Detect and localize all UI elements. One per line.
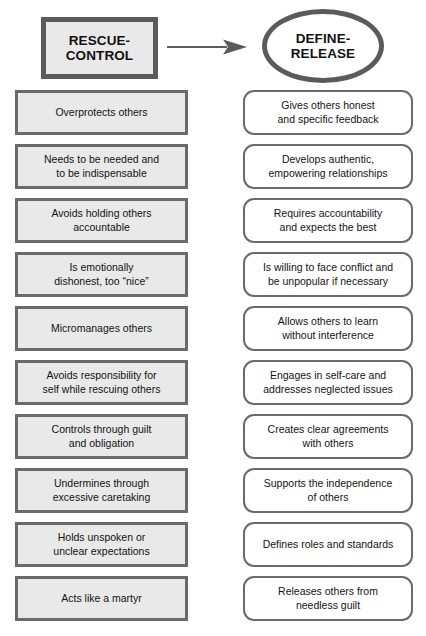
right-column: Gives others honest and specific feedbac…: [243, 90, 413, 630]
list-item-text: Develops authentic, empowering relations…: [263, 153, 392, 179]
list-item-line2: addresses neglected issues: [263, 383, 393, 395]
list-item: Controls through guilt and obligation: [15, 414, 188, 459]
list-item-line2: accountable: [73, 221, 130, 233]
list-item: Is willing to face conflict and be unpop…: [243, 252, 413, 297]
right-arrow-icon: [165, 36, 250, 58]
list-item: Overprotects others: [15, 90, 188, 135]
list-item: Requires accountability and expects the …: [243, 198, 413, 243]
header-left-line1: RESCUE-: [69, 33, 130, 48]
comparison-diagram: RESCUE- CONTROL DEFINE- RELEASE Overprot…: [0, 0, 426, 636]
list-item-line1: Undermines through: [54, 477, 149, 489]
list-item-line1: Is willing to face conflict and: [263, 261, 393, 273]
list-item-line1: Controls through guilt: [52, 423, 152, 435]
list-item-line1: Releases others from: [278, 585, 378, 597]
list-item-text: Requires accountability and expects the …: [269, 207, 388, 233]
diagram-header: RESCUE- CONTROL DEFINE- RELEASE: [0, 0, 426, 90]
list-item-line2: without interference: [282, 329, 374, 341]
list-item-line1: Defines roles and standards: [263, 538, 394, 550]
header-ellipse-label: DEFINE- RELEASE: [291, 31, 355, 61]
header-box-label: RESCUE- CONTROL: [66, 33, 133, 63]
list-item-text: Creates clear agreements with others: [263, 423, 394, 449]
list-item-line1: Supports the independence: [264, 477, 392, 489]
list-item-line1: Allows others to learn: [278, 315, 378, 327]
list-item-line2: self while rescuing others: [43, 383, 161, 395]
list-item-line1: Creates clear agreements: [268, 423, 389, 435]
list-item-text: Allows others to learn without interfere…: [273, 315, 383, 341]
list-item: Engages in self-care and addresses negle…: [243, 360, 413, 405]
list-item-line1: Overprotects others: [55, 106, 147, 118]
header-left-line2: CONTROL: [66, 48, 133, 63]
list-item-line2: and obligation: [69, 437, 134, 449]
list-item-line2: empowering relationships: [268, 167, 387, 179]
list-item: Holds unspoken or unclear expectations: [15, 522, 188, 567]
list-item: Allows others to learn without interfere…: [243, 306, 413, 351]
list-item-line1: Avoids responsibility for: [46, 369, 156, 381]
list-item-line1: Needs to be needed and: [44, 153, 159, 165]
list-item-line2: dishonest, too “nice”: [54, 275, 149, 287]
list-item-line2: with others: [303, 437, 354, 449]
list-item-text: Releases others from needless guilt: [273, 585, 383, 611]
list-item-text: Undermines through excessive caretaking: [48, 477, 155, 503]
list-item-text: Acts like a martyr: [56, 592, 147, 605]
list-item: Acts like a martyr: [15, 576, 188, 621]
list-item-line1: Is emotionally: [69, 261, 133, 273]
list-item-line1: Avoids holding others: [51, 207, 151, 219]
list-item-text: Gives others honest and specific feedbac…: [273, 99, 384, 125]
list-item: Develops authentic, empowering relations…: [243, 144, 413, 189]
list-item-line2: excessive caretaking: [53, 491, 150, 503]
left-column: Overprotects others Needs to be needed a…: [15, 90, 188, 630]
header-right-line2: RELEASE: [291, 46, 355, 61]
list-item: Needs to be needed and to be indispensab…: [15, 144, 188, 189]
list-item: Gives others honest and specific feedbac…: [243, 90, 413, 135]
list-item-text: Supports the independence of others: [259, 477, 397, 503]
list-item-text: Is willing to face conflict and be unpop…: [258, 261, 398, 287]
list-item-text: Micromanages others: [46, 322, 157, 335]
list-item-text: Controls through guilt and obligation: [47, 423, 157, 449]
list-item-text: Avoids holding others accountable: [46, 207, 156, 233]
list-item-line2: and expects the best: [280, 221, 377, 233]
list-item-line1: Develops authentic,: [282, 153, 374, 165]
list-item: Avoids holding others accountable: [15, 198, 188, 243]
list-item-line1: Micromanages others: [51, 322, 152, 334]
list-item-line2: of others: [308, 491, 349, 503]
list-item-line2: be unpopular if necessary: [268, 275, 388, 287]
list-item-text: Is emotionally dishonest, too “nice”: [49, 261, 154, 287]
header-right-line1: DEFINE-: [296, 31, 351, 46]
list-item-text: Overprotects others: [50, 106, 152, 119]
list-item-text: Holds unspoken or unclear expectations: [48, 531, 154, 557]
list-item-line1: Holds unspoken or: [58, 531, 146, 543]
list-item: Supports the independence of others: [243, 468, 413, 513]
list-item: Releases others from needless guilt: [243, 576, 413, 621]
list-item-line1: Requires accountability: [274, 207, 383, 219]
list-item-line1: Gives others honest: [281, 99, 374, 111]
list-item-line2: and specific feedback: [278, 113, 379, 125]
list-item: Undermines through excessive caretaking: [15, 468, 188, 513]
list-item: Micromanages others: [15, 306, 188, 351]
header-box-rescue-control: RESCUE- CONTROL: [41, 17, 158, 79]
list-item-text: Engages in self-care and addresses negle…: [258, 369, 398, 395]
list-item-line2: needless guilt: [296, 599, 360, 611]
list-item-line2: to be indispensable: [56, 167, 147, 179]
diagram-columns: Overprotects others Needs to be needed a…: [0, 90, 426, 636]
list-item: Is emotionally dishonest, too “nice”: [15, 252, 188, 297]
list-item: Avoids responsibility for self while res…: [15, 360, 188, 405]
list-item: Creates clear agreements with others: [243, 414, 413, 459]
list-item-line1: Acts like a martyr: [61, 592, 142, 604]
list-item-text: Needs to be needed and to be indispensab…: [39, 153, 164, 179]
list-item-line1: Engages in self-care and: [270, 369, 386, 381]
list-item-text: Avoids responsibility for self while res…: [38, 369, 166, 395]
list-item-line2: unclear expectations: [53, 545, 149, 557]
list-item: Defines roles and standards: [243, 522, 413, 567]
header-ellipse-define-release: DEFINE- RELEASE: [262, 9, 384, 83]
list-item-text: Defines roles and standards: [258, 538, 399, 551]
